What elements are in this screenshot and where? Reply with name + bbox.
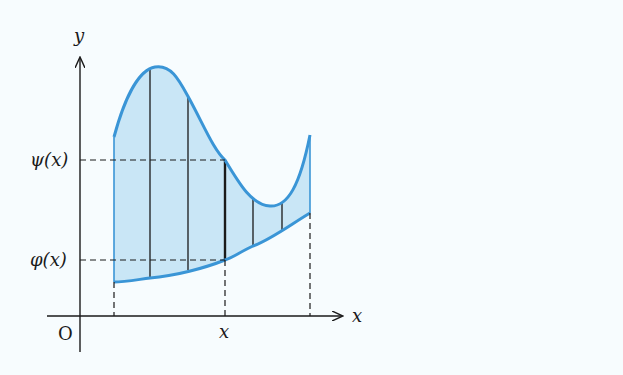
shaded-region [114,67,310,282]
x-mark-label: x [219,321,229,342]
region-diagram: y x O ψ(x) φ(x) x [0,0,623,375]
x-axis-label: x [352,305,362,326]
origin-label: O [58,323,73,344]
phi-label: φ(x) [30,249,67,270]
psi-label: ψ(x) [30,149,68,170]
y-axis-label: y [73,25,85,46]
